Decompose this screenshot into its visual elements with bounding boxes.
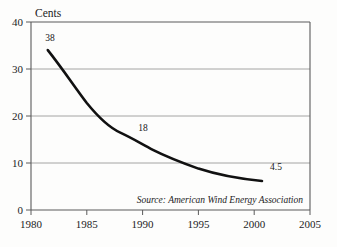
chart-page: 0 10 20 30 40 1980 1985 1990 1995 2000 2… [0,0,337,247]
y-tick-label-30: 30 [12,63,24,75]
x-tick-label-2000: 2000 [243,218,266,230]
y-tick-label-40: 40 [12,16,24,28]
x-axis-ticks [31,210,310,215]
y-tick-label-0: 0 [18,204,24,216]
x-tick-label-1985: 1985 [76,218,99,230]
x-tick-label-1980: 1980 [20,218,43,230]
x-tick-label-1990: 1990 [132,218,155,230]
data-label-38: 38 [45,33,55,43]
x-tick-label-1995: 1995 [187,218,210,230]
line-chart: 0 10 20 30 40 1980 1985 1990 1995 2000 2… [0,0,337,247]
data-label-4-5: 4.5 [270,162,282,172]
y-tick-label-20: 20 [12,110,24,122]
x-tick-label-2005: 2005 [299,218,322,230]
source-note: Source: American Wind Energy Association [137,195,303,205]
y-axis-ticks [26,22,31,210]
y-tick-label-10: 10 [12,157,24,169]
data-label-18: 18 [138,123,148,133]
y-axis-title: Cents [35,7,62,19]
